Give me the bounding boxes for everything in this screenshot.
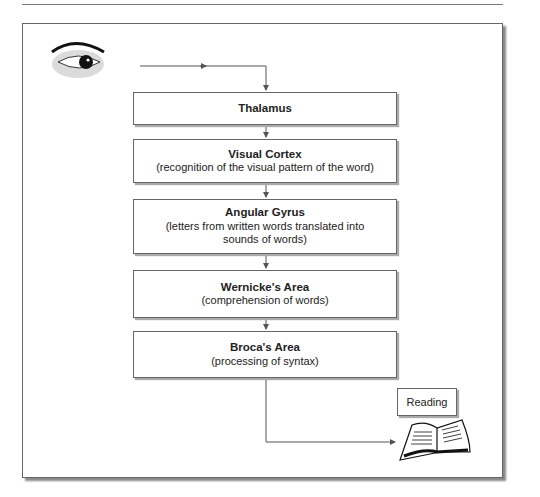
node-description: (letters from written words translated i… bbox=[164, 220, 366, 247]
book-icon bbox=[400, 420, 470, 460]
node-title: Visual Cortex bbox=[134, 148, 396, 162]
node-title: Thalamus bbox=[134, 102, 396, 116]
node-description: (processing of syntax) bbox=[134, 355, 396, 369]
node-title: Wernicke's Area bbox=[134, 281, 396, 295]
node-brocas-area: Broca's Area (processing of syntax) bbox=[133, 331, 397, 378]
node-angular-gyrus: Angular Gyrus (letters from written word… bbox=[133, 199, 397, 254]
node-title: Angular Gyrus bbox=[164, 206, 366, 220]
node-wernickes-area: Wernicke's Area (comprehension of words) bbox=[133, 270, 397, 318]
node-title: Broca's Area bbox=[134, 341, 396, 355]
node-thalamus: Thalamus bbox=[133, 92, 397, 125]
eye-icon bbox=[52, 44, 104, 79]
node-description: (recognition of the visual pattern of th… bbox=[134, 161, 396, 175]
node-visual-cortex: Visual Cortex (recognition of the visual… bbox=[133, 139, 397, 183]
node-description: (comprehension of words) bbox=[134, 294, 396, 308]
node-reading: Reading bbox=[397, 388, 457, 416]
